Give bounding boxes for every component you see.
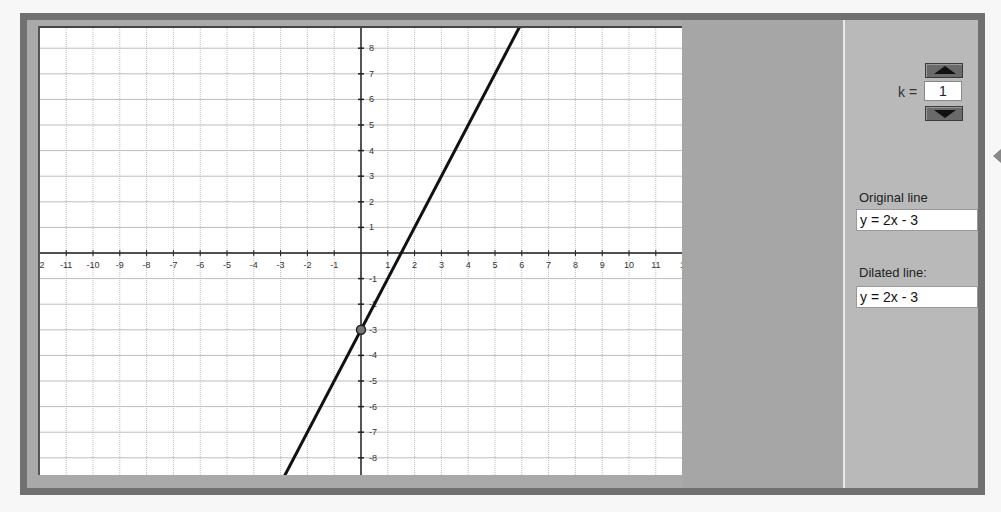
- svg-text:10: 10: [624, 260, 634, 270]
- svg-text:-3: -3: [369, 325, 377, 335]
- svg-text:7: 7: [546, 260, 551, 270]
- svg-text:-4: -4: [250, 260, 258, 270]
- svg-text:-8: -8: [143, 260, 151, 270]
- svg-text:11: 11: [651, 260, 660, 270]
- k-increase-button[interactable]: [925, 63, 963, 78]
- side-arrow-icon[interactable]: [993, 149, 1001, 163]
- svg-text:-7: -7: [369, 427, 377, 437]
- dilated-line-equation: y = 2x - 3: [856, 286, 978, 308]
- svg-text:-8: -8: [369, 453, 377, 463]
- svg-text:-6: -6: [196, 260, 204, 270]
- svg-text:-5: -5: [223, 260, 231, 270]
- k-label: k =: [898, 84, 917, 100]
- svg-text:-11: -11: [60, 260, 72, 270]
- svg-text:5: 5: [369, 120, 374, 130]
- original-line-equation: y = 2x - 3: [856, 209, 978, 231]
- svg-text:-2: -2: [303, 260, 311, 270]
- svg-text:8: 8: [573, 260, 578, 270]
- svg-text:-5: -5: [369, 376, 377, 386]
- svg-text:1: 1: [369, 222, 374, 232]
- up-arrow-icon: [934, 66, 956, 74]
- svg-text:7: 7: [369, 69, 374, 79]
- svg-text:-1: -1: [369, 274, 377, 284]
- svg-text:-9: -9: [116, 260, 124, 270]
- svg-text:1: 1: [680, 260, 682, 270]
- down-arrow-icon: [934, 110, 956, 118]
- k-decrease-button[interactable]: [925, 106, 963, 121]
- svg-text:8: 8: [369, 43, 374, 53]
- dilated-line-label: Dilated line:: [859, 265, 927, 280]
- svg-text:2: 2: [412, 260, 417, 270]
- middle-panel: [682, 20, 843, 488]
- svg-text:-6: -6: [369, 402, 377, 412]
- svg-text:-3: -3: [277, 260, 285, 270]
- coordinate-graph[interactable]: 12-11-10-9-8-7-6-5-4-3-2-112345678910111…: [38, 26, 682, 475]
- svg-text:-4: -4: [369, 350, 377, 360]
- graph-canvas: 12-11-10-9-8-7-6-5-4-3-2-112345678910111…: [40, 28, 682, 475]
- svg-text:5: 5: [492, 260, 497, 270]
- svg-text:1: 1: [385, 260, 390, 270]
- svg-text:3: 3: [369, 171, 374, 181]
- svg-text:3: 3: [439, 260, 444, 270]
- svg-text:9: 9: [600, 260, 605, 270]
- svg-text:-10: -10: [86, 260, 99, 270]
- svg-text:2: 2: [369, 197, 374, 207]
- svg-text:6: 6: [519, 260, 524, 270]
- svg-text:4: 4: [466, 260, 471, 270]
- svg-text:4: 4: [369, 146, 374, 156]
- original-line-label: Original line: [859, 190, 928, 205]
- svg-text:6: 6: [369, 94, 374, 104]
- k-value-field[interactable]: 1: [924, 81, 962, 101]
- svg-text:-7: -7: [169, 260, 177, 270]
- svg-text:12: 12: [40, 260, 44, 270]
- svg-text:-1: -1: [330, 260, 338, 270]
